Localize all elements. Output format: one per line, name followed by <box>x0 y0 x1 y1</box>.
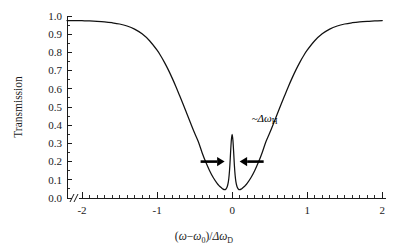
y-tick-label: 0.1 <box>48 174 62 186</box>
y-axis-title: Transmission <box>12 76 24 138</box>
x-tick-label: 2 <box>379 204 385 216</box>
y-tick-label: 0.4 <box>48 119 62 131</box>
x-axis: -2-1012 <box>70 192 386 216</box>
curve-path <box>67 21 382 190</box>
y-tick-label: 0.0 <box>48 192 62 204</box>
transmission-curve <box>67 21 382 190</box>
xlabel-omega0: ω <box>193 230 201 242</box>
right-arrow-head <box>240 157 248 166</box>
xlabel-omega-d: ω <box>219 230 227 242</box>
y-tick-label: 0.9 <box>48 28 62 40</box>
x-tick-label: 0 <box>229 204 235 216</box>
y-tick-label: 0.5 <box>48 101 62 113</box>
y-tick-label: 0.2 <box>48 155 62 167</box>
linewidth-label: ~ΔωH <box>252 112 278 127</box>
annot-subscript: H <box>272 117 278 126</box>
xlabel-omega-d-subscript: D <box>227 236 233 245</box>
xlabel-omega: ω <box>179 230 187 242</box>
y-axis: 0.00.10.20.30.40.50.60.70.80.91.0 <box>48 10 72 204</box>
x-tick-label: -2 <box>77 204 86 216</box>
x-tick-label: -1 <box>152 204 161 216</box>
figure-container: 0.00.10.20.30.40.50.60.70.80.91.0 -2-101… <box>0 0 409 248</box>
transmission-plot: 0.00.10.20.30.40.50.60.70.80.91.0 -2-101… <box>0 0 409 248</box>
y-tick-label: 0.7 <box>48 64 62 76</box>
y-tick-label: 1.0 <box>48 10 62 22</box>
axis-break-mark <box>74 194 78 202</box>
x-tick-label: 1 <box>304 204 310 216</box>
annot-delta: Δ <box>257 112 264 124</box>
y-tick-label: 0.3 <box>48 137 62 149</box>
left-arrow-head <box>217 157 225 166</box>
y-tick-label: 0.8 <box>48 46 62 58</box>
linewidth-annotation: ~ΔωH <box>201 112 278 167</box>
y-tick-label: 0.6 <box>48 83 62 95</box>
x-axis-title: (ω−ω0)/ΔωD <box>175 230 234 245</box>
